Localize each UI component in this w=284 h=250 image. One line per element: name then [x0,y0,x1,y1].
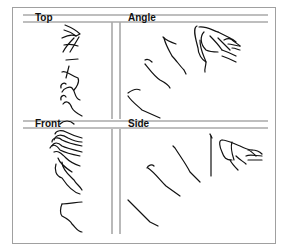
front-view-strokes [50,121,82,232]
panel-label-top: Top [35,13,53,23]
four-view-figure: Top Angle Front Side [0,0,284,250]
panel-label-side: Side [128,119,149,129]
panel-label-front: Front [35,119,61,129]
side-view-strokes [128,134,262,226]
panel-label-angle: Angle [128,13,156,23]
angle-view-strokes [128,26,240,118]
top-view-strokes [61,25,82,116]
